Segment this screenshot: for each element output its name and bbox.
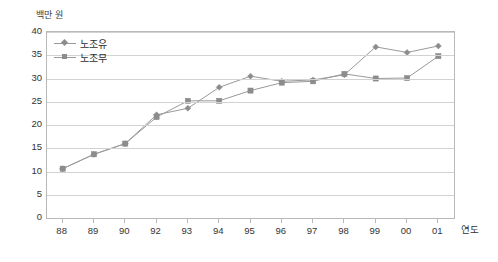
gridline [47,32,454,33]
series-line-1 [63,46,439,169]
x-axis-tick-mark [250,219,251,223]
data-point-marker [435,43,441,49]
data-point-marker [185,105,191,111]
y-axis-tick-label: 35 [2,49,42,59]
y-axis-tick-label: 15 [2,142,42,152]
gridline [47,102,454,103]
x-axis-tick-mark [93,219,94,223]
x-axis-tick-label: 89 [76,225,110,236]
y-axis-tick-label: 25 [2,96,42,106]
x-axis-tick-label: 92 [139,225,173,236]
legend-diamond-marker-icon [54,38,76,48]
y-axis-tick-label: 40 [2,26,42,36]
legend-label: 노조무 [76,50,107,65]
data-point-marker [216,84,222,90]
x-axis-tick-mark [437,219,438,223]
chart-container: 백만 원 0510152025303540 888990929394959697… [0,0,498,262]
legend-square-marker-icon [54,52,76,62]
x-axis-tick-mark [156,219,157,223]
y-axis-tick-label: 20 [2,119,42,129]
gridline [47,172,454,173]
gridline [47,195,454,196]
data-point-marker [279,80,284,85]
y-axis-tick-label: 5 [2,189,42,199]
gridline [47,148,454,149]
data-point-marker [91,152,96,157]
x-axis-tick-label: 01 [420,225,454,236]
x-axis-tick-labels: 88899092939495969798990001 [46,225,455,241]
x-axis-tick-mark [124,219,125,223]
x-axis-tick-label: 96 [264,225,298,236]
x-axis-tick-label: 93 [170,225,204,236]
x-axis-tick-marks [46,219,455,224]
chart-title [0,0,498,2]
x-axis-tick-mark [218,219,219,223]
x-axis-tick-label: 95 [233,225,267,236]
legend-item-2[interactable]: 노조무 [54,50,126,64]
x-axis-tick-mark [343,219,344,223]
x-axis-tick-label: 98 [326,225,360,236]
x-axis-tick-mark [62,219,63,223]
x-axis-tick-mark [406,219,407,223]
y-axis-tick-labels: 0510152025303540 [0,31,42,219]
data-point-marker [342,71,347,76]
legend-item-1[interactable]: 노조유 [54,36,126,50]
x-axis-tick-mark [375,219,376,223]
gridline [47,125,454,126]
data-point-marker [154,114,159,119]
x-axis-tick-mark [281,219,282,223]
y-axis-tick-label: 30 [2,73,42,83]
data-point-marker [248,88,253,93]
x-axis-tick-label: 99 [358,225,392,236]
y-axis-tick-label: 10 [2,166,42,176]
x-axis-tick-label: 97 [295,225,329,236]
y-axis-unit-label: 백만 원 [36,8,63,21]
x-axis-title: 연도 [461,222,479,236]
data-point-marker [123,141,128,146]
x-axis-tick-label: 94 [201,225,235,236]
gridline [47,79,454,80]
chart-legend: 노조유노조무 [54,36,126,64]
x-axis-tick-mark [312,219,313,223]
y-axis-tick-label: 0 [2,212,42,222]
x-axis-tick-label: 88 [45,225,79,236]
x-axis-tick-mark [187,219,188,223]
x-axis-tick-label: 00 [389,225,423,236]
legend-label: 노조유 [76,36,107,51]
x-axis-tick-label: 90 [107,225,141,236]
